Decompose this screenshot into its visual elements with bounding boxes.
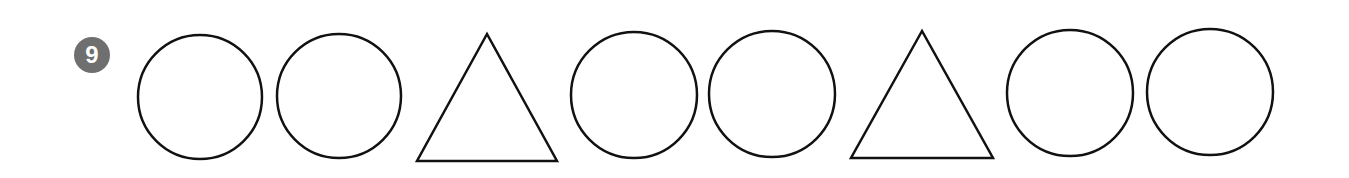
circle-shape — [277, 34, 401, 158]
circle-shape — [1147, 29, 1273, 155]
circle-shape — [709, 31, 835, 157]
triangle-shape — [417, 34, 557, 161]
triangle-shape — [851, 31, 993, 158]
shape-sequence — [0, 0, 1349, 178]
circle-shape — [138, 35, 262, 159]
circle-shape — [571, 32, 697, 158]
circle-shape — [1007, 30, 1133, 156]
